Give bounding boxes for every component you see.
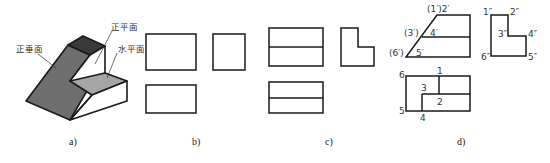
vertical-face-label: 正垂面 [16,44,43,54]
caption-d: d) [457,136,465,148]
horizontal-face-label: 水平面 [118,44,145,54]
label-4: 4 [420,113,426,123]
caption-a: a) [69,136,77,148]
side-view-l-shape [491,15,526,56]
panel-b-views [146,34,245,113]
label-2: 2 [437,97,443,107]
front-view-box [146,34,196,70]
label-3pp: 3″ [498,29,508,39]
caption-c: c) [325,136,333,148]
frontal-face-label: 正平面 [111,22,138,32]
label-5: 5 [399,106,405,116]
label-6pp: 6″ [481,52,491,62]
label-3: 3 [421,83,427,93]
side-view-l-shape [341,28,374,66]
label-6: 6 [399,70,405,80]
label-1pp: 1″ [483,7,493,17]
label-1: 1 [437,66,443,76]
label-6p: (6′) [389,48,404,58]
label-4p: 4′ [430,28,438,38]
caption-b: b) [192,136,200,148]
side-view-box [213,34,245,70]
three-view-diagram: 正垂面 正平面 水平面 a) b) c) (1′)2′ (3′) 4′ (6′)… [0,0,550,163]
top-view-box [146,85,196,113]
panel-d-views [406,15,526,111]
label-5pp: 5″ [528,52,538,62]
label-1p2p: (1′)2′ [427,4,450,14]
panel-c-views [269,28,374,113]
label-3p: (3′) [404,28,419,38]
label-4pp: 4″ [528,29,538,39]
label-5p: 5′ [416,48,424,58]
label-2pp: 2″ [510,7,520,17]
